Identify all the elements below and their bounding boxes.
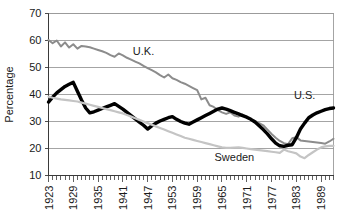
series-label-us: U.S. [294,89,315,101]
series-line-uk [49,40,334,144]
series-line-us [49,82,334,146]
y-tick-label: 40 [29,88,41,100]
series-line-sweden [49,97,334,159]
x-axis-group: 1923192919351941194719531959196519711977… [43,176,334,210]
series-label-sweden: Sweden [214,151,254,163]
y-axis-group: 10203040506070 [29,7,48,181]
y-tick-label: 30 [29,115,41,127]
x-tick-label: 1935 [92,186,104,210]
y-tick-label: 50 [29,61,41,73]
y-tick-label: 10 [29,169,41,181]
y-tick-label: 60 [29,34,41,46]
line-chart: 10203040506070 1923192919351941194719531… [0,0,345,222]
x-tick-label: 1977 [266,186,278,210]
x-tick-label: 1953 [166,186,178,210]
x-tick-label: 1983 [290,186,302,210]
x-tick-label: 1923 [43,186,55,210]
chart-container: 10203040506070 1923192919351941194719531… [0,0,345,222]
x-tick-label: 1971 [241,186,253,210]
y-tick-label: 70 [29,7,41,19]
x-tick-label: 1965 [216,186,228,210]
x-tick-label: 1989 [315,186,327,210]
x-tick-label: 1947 [142,186,154,210]
x-tick-label: 1959 [191,186,203,210]
axis-titles-group: Percentage [3,66,15,122]
y-tick-label: 20 [29,142,41,154]
series-group [49,40,334,158]
y-axis-title: Percentage [3,66,15,122]
series-label-uk: U.K. [133,45,154,57]
x-tick-label: 1929 [67,186,79,210]
x-tick-label: 1941 [117,186,129,210]
